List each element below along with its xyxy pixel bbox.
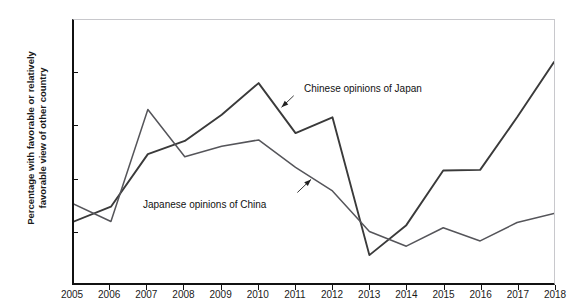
line-chart-svg bbox=[74, 20, 554, 283]
annotation-arrow-2 bbox=[297, 179, 311, 192]
x-tick-label: 2018 bbox=[533, 289, 576, 300]
y-tick-mark bbox=[72, 72, 78, 73]
annotation-arrow-1 bbox=[282, 96, 294, 108]
x-tick-mark bbox=[518, 285, 519, 290]
cut-off-title-sliver: · · · · · · bbox=[0, 0, 576, 3]
x-tick-mark bbox=[406, 285, 407, 290]
y-tick-mark bbox=[72, 179, 78, 180]
x-tick-mark bbox=[555, 285, 556, 290]
y-axis-label: Percentage with favorable or relatively … bbox=[25, 13, 49, 263]
y-axis-label-line1: Percentage with favorable or relatively bbox=[25, 51, 36, 225]
annotation-chinese-opinions: Chinese opinions of Japan bbox=[304, 83, 422, 94]
y-axis-label-line2: favorable view of other country bbox=[37, 68, 48, 209]
series-line-2 bbox=[74, 109, 554, 246]
plot-area bbox=[72, 19, 555, 285]
x-tick-mark bbox=[444, 285, 445, 290]
x-tick-mark bbox=[146, 285, 147, 290]
x-tick-mark bbox=[481, 285, 482, 290]
chart-figure: · · · · · · Percentage with favorable or… bbox=[0, 0, 576, 307]
x-tick-mark bbox=[332, 285, 333, 290]
x-tick-mark bbox=[369, 285, 370, 290]
x-tick-mark bbox=[258, 285, 259, 290]
x-tick-mark bbox=[295, 285, 296, 290]
y-tick-mark bbox=[72, 232, 78, 233]
annotation-japanese-opinions: Japanese opinions of China bbox=[143, 199, 266, 210]
y-tick-mark bbox=[72, 125, 78, 126]
x-tick-mark bbox=[183, 285, 184, 290]
x-tick-mark bbox=[109, 285, 110, 290]
x-tick-mark bbox=[221, 285, 222, 290]
